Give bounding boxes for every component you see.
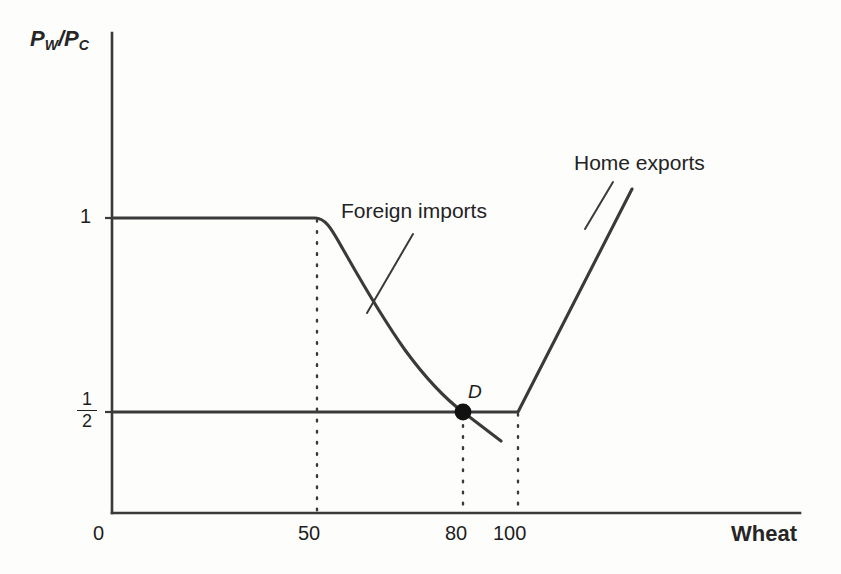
chart-figure: PW/PC Wheat 1 1 2 0 50 80 100 Foreign im… [0, 0, 841, 574]
y-axis-title-sub-w: W [45, 37, 58, 53]
y-axis-title-slash: /P [58, 26, 79, 51]
y-axis-title-p1: P [30, 26, 45, 51]
y-axis-title-sub-c: C [79, 37, 89, 53]
equilibrium-point-label: D [468, 382, 482, 401]
chart-plot-area [0, 0, 841, 574]
y-axis-title: PW/PC [30, 28, 89, 52]
home-exports-leader-line [585, 182, 613, 229]
foreign-imports-label: Foreign imports [341, 200, 487, 221]
foreign-imports-leader-line [367, 234, 413, 313]
x-tick-label-50: 50 [298, 523, 320, 543]
foreign-imports-curve [112, 218, 501, 441]
home-exports-label: Home exports [574, 152, 705, 173]
fraction-numerator: 1 [74, 390, 100, 410]
y-tick-label-one-half: 1 2 [74, 390, 100, 431]
fraction-denominator: 2 [74, 411, 100, 431]
equilibrium-point-marker [455, 404, 472, 421]
x-tick-label-0: 0 [93, 523, 104, 543]
y-tick-label-1: 1 [80, 206, 91, 226]
x-axis-title: Wheat [731, 523, 797, 545]
x-tick-label-80: 80 [445, 523, 467, 543]
x-tick-label-100: 100 [493, 523, 526, 543]
